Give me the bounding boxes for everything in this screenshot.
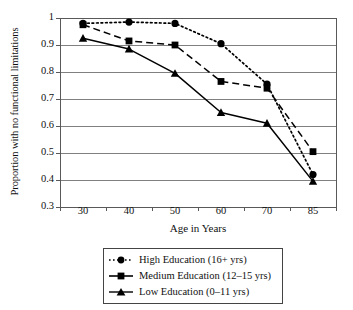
x-tick-label: 50	[155, 205, 195, 216]
x-axis-title: Age in Years	[60, 222, 336, 234]
legend-item-high: High Education (16+ yrs)	[108, 252, 278, 268]
y-axis-title: Proportion with no functional limitation…	[9, 12, 20, 212]
chart-legend: High Education (16+ yrs) Medium Educatio…	[103, 248, 283, 304]
x-tick-label: 60	[201, 205, 241, 216]
x-tick-label: 70	[247, 205, 287, 216]
y-tick-label: 0.5	[26, 146, 54, 157]
legend-label-low: Low Education (0–11 yrs)	[139, 286, 249, 298]
legend-item-medium: Medium Education (12–15 yrs)	[108, 268, 278, 284]
y-tick-label: 0.7	[26, 92, 54, 103]
y-tick-label: 0.6	[26, 119, 54, 130]
x-tick-label: 85	[293, 205, 333, 216]
x-tick-label: 40	[109, 205, 149, 216]
legend-item-low: Low Education (0–11 yrs)	[108, 284, 278, 300]
y-tick-label: 0.9	[26, 38, 54, 49]
y-tick-label: 1	[26, 11, 54, 22]
y-tick-label: 0.3	[26, 200, 54, 211]
legend-key-triangle-solid-icon	[108, 286, 134, 298]
legend-label-medium: Medium Education (12–15 yrs)	[139, 270, 271, 282]
y-tick-label: 0.4	[26, 173, 54, 184]
legend-key-circle-dotted-icon	[108, 254, 134, 266]
x-tick-label: 30	[63, 205, 103, 216]
chart-figure: Proportion with no functional limitation…	[0, 0, 353, 310]
y-tick-label: 0.8	[26, 65, 54, 76]
legend-label-high: High Education (16+ yrs)	[139, 254, 247, 266]
legend-key-square-dashed-icon	[108, 270, 134, 282]
